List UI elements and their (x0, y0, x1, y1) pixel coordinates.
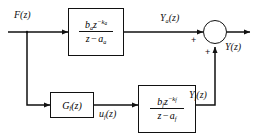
control-signal-label: uf(z) (99, 108, 116, 119)
secondary-plant-denominator: z − af (155, 109, 178, 121)
sum-sign-bottom: + (205, 47, 210, 57)
summing-junction (203, 20, 227, 44)
branch-node (26, 31, 28, 33)
output-signal-label: Y(z) (225, 41, 241, 52)
block-diagram: baz−ka z − aa Gf(z) bfz−kf z − af F(z) Y… (0, 0, 257, 136)
wire-branch-down (27, 32, 50, 105)
secondary-plant-transfer-function: bfz−kf z − af (150, 97, 184, 121)
primary-plant-denominator: z − aa (84, 32, 108, 44)
input-signal-label: F(z) (14, 9, 31, 20)
sum-sign-left: + (191, 35, 196, 45)
primary-plant-transfer-function: baz−ka z − aa (79, 20, 113, 44)
controller-block: Gf(z) (50, 92, 94, 118)
controller-label: Gf(z) (62, 100, 82, 111)
primary-output-signal-label: Ya(z) (160, 12, 179, 23)
secondary-output-signal-label: Yf(z) (189, 89, 207, 100)
secondary-plant-block: bfz−kf z − af (138, 85, 196, 133)
primary-plant-block: baz−ka z − aa (68, 8, 124, 56)
primary-plant-numerator: baz−ka (83, 20, 109, 31)
secondary-plant-numerator: bfz−kf (155, 97, 178, 108)
